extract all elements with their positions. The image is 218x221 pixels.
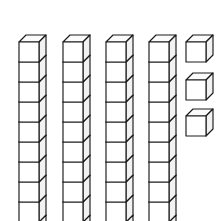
cube-front-face [19, 202, 39, 221]
cube-front-face [106, 202, 126, 221]
cube-front-face [63, 122, 83, 142]
cube-front-face [186, 80, 206, 100]
cube-front-face [63, 142, 83, 162]
cube-front-face [63, 62, 83, 82]
cube-front-face [19, 182, 39, 202]
tens-rod-1 [19, 35, 46, 221]
tens-rod-2 [63, 35, 90, 221]
cube-front-face [106, 122, 126, 142]
unit-cube-1 [186, 35, 213, 62]
cube-front-face [63, 162, 83, 182]
cube-front-face [149, 42, 169, 62]
cube-front-face [19, 42, 39, 62]
blocks-illustration [0, 0, 218, 221]
cube-front-face [149, 62, 169, 82]
rod-2-cube-1 [63, 35, 90, 62]
rod-1-cube-1 [19, 35, 46, 62]
cube-front-face [106, 62, 126, 82]
tens-rods-group [19, 35, 176, 221]
cube-front-face [149, 142, 169, 162]
cube-front-face [149, 182, 169, 202]
cube-front-face [19, 62, 39, 82]
cube-front-face [186, 42, 206, 62]
cube-front-face [106, 142, 126, 162]
cube-front-face [19, 142, 39, 162]
cube-front-face [19, 82, 39, 102]
cube-front-face [63, 202, 83, 221]
cube-front-face [63, 82, 83, 102]
cube-front-face [149, 202, 169, 221]
cube-front-face [106, 182, 126, 202]
cube-front-face [19, 162, 39, 182]
base-ten-blocks-canvas [0, 0, 218, 221]
tens-rod-3 [106, 35, 133, 221]
cube-front-face [106, 42, 126, 62]
cube-front-face [149, 122, 169, 142]
cube-front-face [106, 102, 126, 122]
cube-front-face [149, 162, 169, 182]
rod-3-cube-1 [106, 35, 133, 62]
cube-front-face [19, 102, 39, 122]
cube-front-face [149, 102, 169, 122]
rod-4-cube-1 [149, 35, 176, 62]
cube-front-face [149, 82, 169, 102]
cube-front-face [106, 82, 126, 102]
unit-cubes-group [186, 35, 213, 136]
cube-front-face [106, 162, 126, 182]
unit-cube-2 [186, 73, 213, 100]
cube-front-face [63, 42, 83, 62]
cube-front-face [19, 122, 39, 142]
unit-cube-3 [186, 109, 213, 136]
cube-front-face [63, 102, 83, 122]
tens-rod-4 [149, 35, 176, 221]
cube-front-face [63, 182, 83, 202]
cube-front-face [186, 116, 206, 136]
